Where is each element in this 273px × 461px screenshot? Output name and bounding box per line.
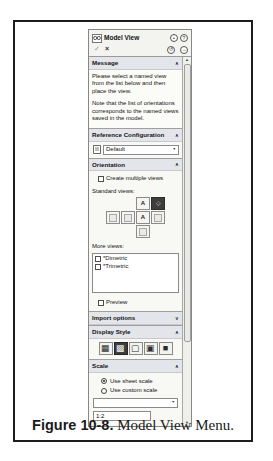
reference-configuration-row: Default ▼ xyxy=(89,142,182,158)
dimetric-checkbox[interactable] xyxy=(95,256,101,262)
view-button-back[interactable] xyxy=(106,211,120,224)
view-button-front[interactable]: A xyxy=(136,211,150,224)
view-button-right[interactable] xyxy=(151,211,165,224)
section-header-import-options[interactable]: Import options ∨ xyxy=(89,311,182,325)
figure-caption: Figure 10-8. Model View Menu. xyxy=(15,417,251,434)
scrollbar-thumb[interactable] xyxy=(184,64,191,342)
message-body: Please select a named view from the list… xyxy=(89,70,182,128)
shaded-with-edges-button[interactable]: ▣ xyxy=(144,342,158,355)
scale-header-label: Scale xyxy=(92,362,108,370)
preview-label: Preview xyxy=(106,299,127,307)
view-button-isometric[interactable]: ◇ xyxy=(151,197,165,210)
top-view-icon: A xyxy=(141,200,145,208)
panel-title: Model View xyxy=(104,34,168,42)
hidden-lines-visible-button[interactable]: ▩ xyxy=(114,342,128,355)
use-sheet-scale-radio[interactable] xyxy=(101,378,107,384)
message-header-label: Message xyxy=(92,59,118,67)
model-view-panel: Model View • ? ✓ × ↺ → Message ∧ Plea xyxy=(88,29,192,427)
collapse-chevron-icon[interactable]: ∧ xyxy=(175,132,179,138)
keep-visible-pin-icon[interactable]: • xyxy=(170,34,178,42)
hidden-lines-removed-icon: ▢ xyxy=(131,343,140,354)
collapse-chevron-icon[interactable]: ∧ xyxy=(175,60,179,66)
view-button-top[interactable]: A xyxy=(136,197,150,210)
configuration-icon xyxy=(92,145,101,154)
ok-button[interactable]: ✓ xyxy=(94,45,100,54)
standard-views-grid: A ◇ A xyxy=(92,197,179,238)
front-view-icon: A xyxy=(141,214,145,222)
create-multiple-views-label: Create multiple views xyxy=(106,175,163,183)
cancel-button[interactable]: × xyxy=(105,45,109,54)
message-paragraph: Note that the list of orientations corre… xyxy=(92,100,179,123)
figure-caption-number: Figure 10-8. xyxy=(32,417,113,433)
right-view-icon xyxy=(154,214,162,222)
create-multiple-views-checkbox[interactable] xyxy=(98,176,104,182)
list-item: *Trimetric xyxy=(95,263,176,271)
forward-icon[interactable]: → xyxy=(180,46,188,54)
panel-header: Model View • ? ✓ × ↺ → xyxy=(89,30,191,57)
trimetric-checkbox[interactable] xyxy=(95,264,101,270)
shaded-icon: ■ xyxy=(163,343,168,354)
dimetric-label: *Dimetric xyxy=(103,255,127,263)
use-sheet-scale-label: Use sheet scale xyxy=(110,378,153,386)
preview-checkbox[interactable] xyxy=(98,300,104,306)
expand-chevron-icon[interactable]: ∨ xyxy=(175,315,179,321)
use-custom-scale-radio[interactable] xyxy=(101,388,107,394)
import-options-header-label: Import options xyxy=(92,314,135,322)
isometric-view-icon: ◇ xyxy=(156,200,161,208)
back-view-icon xyxy=(109,214,117,222)
wireframe-button[interactable]: ▦ xyxy=(99,342,113,355)
reference-configuration-header-label: Reference Configuration xyxy=(92,131,164,139)
section-header-scale[interactable]: Scale ∧ xyxy=(89,359,182,373)
display-style-header-label: Display Style xyxy=(92,328,131,336)
custom-scale-dropdown[interactable]: ▼ xyxy=(93,398,178,408)
collapse-chevron-icon[interactable]: ∧ xyxy=(175,161,179,167)
more-views-listbox[interactable]: *Dimetric *Trimetric xyxy=(92,253,179,293)
panel-scrollbar[interactable]: ▲ ▼ xyxy=(182,57,191,426)
scrollbar-track[interactable] xyxy=(183,63,191,420)
use-custom-scale-label: Use custom scale xyxy=(110,387,157,395)
message-paragraph: Please select a named view from the list… xyxy=(92,73,179,96)
view-button-bottom[interactable] xyxy=(136,225,150,238)
section-header-message[interactable]: Message ∧ xyxy=(89,57,182,70)
figure-frame: Model View • ? ✓ × ↺ → Message ∧ Plea xyxy=(13,20,253,442)
hidden-lines-removed-button[interactable]: ▢ xyxy=(129,342,143,355)
wireframe-icon: ▦ xyxy=(101,343,110,354)
model-view-icon xyxy=(92,34,102,43)
display-style-buttons: ▦ ▩ ▢ ▣ ■ xyxy=(89,339,182,359)
figure-caption-text: Model View Menu. xyxy=(113,417,233,433)
collapse-chevron-icon[interactable]: ∧ xyxy=(175,329,179,335)
list-item: *Dimetric xyxy=(95,255,176,263)
standard-views-label: Standard views: xyxy=(92,188,179,196)
configuration-dropdown-value: Default xyxy=(106,146,125,154)
undo-icon[interactable]: ↺ xyxy=(167,46,175,54)
hidden-lines-visible-icon: ▩ xyxy=(116,343,125,354)
section-header-orientation[interactable]: Orientation ∧ xyxy=(89,158,182,172)
help-icon[interactable]: ? xyxy=(180,34,188,42)
left-view-icon xyxy=(124,214,132,222)
bottom-view-icon xyxy=(139,228,147,236)
chevron-down-icon: ▼ xyxy=(173,147,176,151)
view-button-left[interactable] xyxy=(121,211,135,224)
shaded-button[interactable]: ■ xyxy=(159,342,173,355)
configuration-dropdown[interactable]: Default ▼ xyxy=(103,145,179,155)
section-header-reference-configuration[interactable]: Reference Configuration ∧ xyxy=(89,128,182,142)
shaded-with-edges-icon: ▣ xyxy=(146,343,155,354)
orientation-body: Create multiple views Standard views: A … xyxy=(89,171,182,311)
trimetric-label: *Trimetric xyxy=(103,263,128,271)
orientation-header-label: Orientation xyxy=(92,161,125,169)
chevron-down-icon: ▼ xyxy=(172,400,175,404)
section-header-display-style[interactable]: Display Style ∧ xyxy=(89,325,182,339)
collapse-chevron-icon[interactable]: ∧ xyxy=(175,363,179,369)
more-views-label: More views: xyxy=(92,243,179,251)
